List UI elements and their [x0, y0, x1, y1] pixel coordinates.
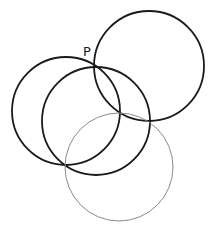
circles-diagram: P [0, 0, 213, 235]
point-label-p: P [83, 44, 91, 59]
circle-bottom-gray [65, 113, 173, 221]
circle-top-right [94, 11, 204, 121]
circle-left [12, 57, 120, 165]
